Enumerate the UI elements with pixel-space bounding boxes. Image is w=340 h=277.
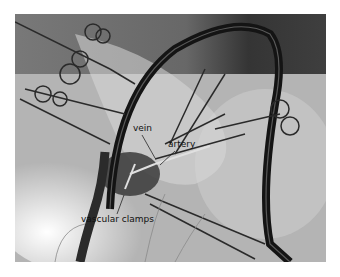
photo-scene xyxy=(15,14,326,262)
vein-label: vein xyxy=(133,124,152,133)
artery-label: artery xyxy=(168,140,195,149)
surgical-photo xyxy=(15,14,326,262)
vascular-clamps-label: vascular clamps xyxy=(81,215,154,224)
